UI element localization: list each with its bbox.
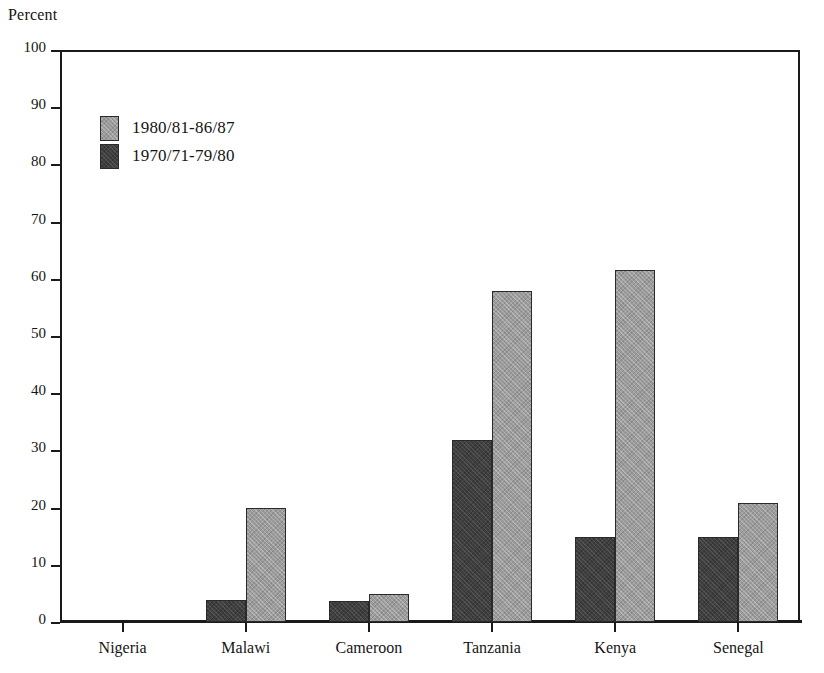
bar-malawi-series-old xyxy=(206,600,246,622)
bar-malawi-series-new xyxy=(246,508,286,622)
bar-senegal-series-old xyxy=(698,537,738,622)
legend-item-1: 1970/71-79/80 xyxy=(100,142,235,170)
legend-swatch-icon xyxy=(100,144,119,169)
legend-label: 1970/71-79/80 xyxy=(132,146,235,166)
bar-cameroon-series-old xyxy=(329,601,369,622)
legend-item-0: 1980/81-86/87 xyxy=(100,114,235,142)
bar-cameroon-series-new xyxy=(369,594,409,622)
bar-tanzania-series-old xyxy=(452,440,492,622)
legend-swatch-icon xyxy=(100,116,119,141)
bar-kenya-series-old xyxy=(575,537,615,622)
bar-tanzania-series-new xyxy=(492,291,532,622)
legend-label: 1980/81-86/87 xyxy=(132,118,235,138)
bar-kenya-series-new xyxy=(615,270,655,622)
bar-senegal-series-new xyxy=(738,503,778,622)
bar-chart: Percent 0102030405060708090100 NigeriaMa… xyxy=(0,0,824,673)
bars-layer xyxy=(0,0,824,673)
chart-legend: 1980/81-86/871970/71-79/80 xyxy=(100,114,235,170)
